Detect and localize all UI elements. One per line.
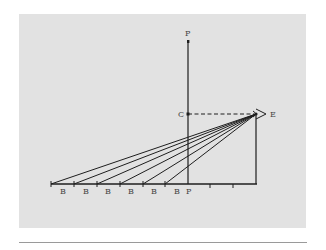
label-b: B	[128, 187, 134, 196]
visual-rays	[51, 114, 256, 184]
label-e: E	[270, 110, 276, 119]
label-b: B	[174, 187, 180, 196]
label-c: C	[178, 110, 184, 119]
bottom-rule	[19, 242, 307, 243]
perspective-diagram: P C E P B B B B B B	[0, 0, 326, 250]
label-b: B	[151, 187, 157, 196]
eye-icon	[253, 109, 266, 119]
label-p-base: P	[186, 187, 192, 196]
label-b: B	[60, 187, 66, 196]
center-marker	[187, 113, 190, 116]
label-b: B	[83, 187, 89, 196]
label-b: B	[105, 187, 111, 196]
picture-plane-top-marker	[187, 40, 189, 43]
label-p-top: P	[185, 29, 191, 38]
